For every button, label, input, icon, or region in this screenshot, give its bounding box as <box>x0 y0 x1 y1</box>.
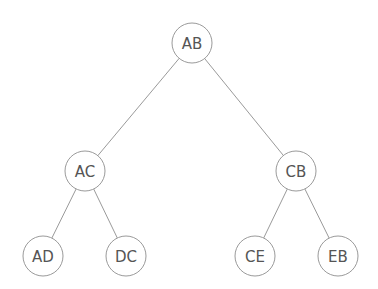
edge-ab-ac <box>98 58 179 155</box>
node-ab: AB <box>172 23 212 63</box>
edge-ac-dc <box>94 189 118 238</box>
node-dc: DC <box>106 236 146 276</box>
nodes-layer: ABACCBADDCCEEB <box>23 23 358 276</box>
node-label: CE <box>245 248 265 266</box>
node-label: DC <box>115 248 137 266</box>
node-cb: CB <box>276 151 316 191</box>
node-ad: AD <box>23 236 63 276</box>
edge-ac-ad <box>52 189 76 238</box>
node-label: AC <box>75 163 95 181</box>
node-ac: AC <box>65 151 105 191</box>
edges-layer <box>52 58 329 238</box>
edge-cb-eb <box>305 189 329 238</box>
node-label: CB <box>286 163 307 181</box>
node-ce: CE <box>235 236 275 276</box>
node-label: EB <box>328 248 348 266</box>
edge-ab-cb <box>205 59 284 156</box>
edge-cb-ce <box>264 189 288 238</box>
node-eb: EB <box>318 236 358 276</box>
node-label: AB <box>182 35 203 53</box>
tree-diagram: ABACCBADDCCEEB <box>0 0 378 289</box>
node-label: AD <box>32 248 54 266</box>
